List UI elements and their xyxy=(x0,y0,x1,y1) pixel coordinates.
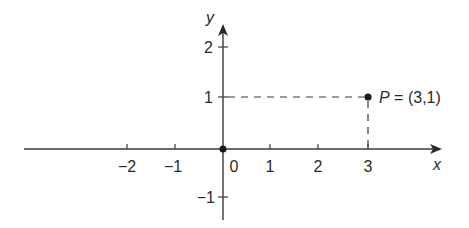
y-axis-label: y xyxy=(205,9,215,26)
origin-point xyxy=(219,145,226,152)
y-tick-label: 1 xyxy=(204,89,213,106)
point-p-name: P xyxy=(379,89,390,106)
y-tick-label: 2 xyxy=(204,39,213,56)
x-tick-label: 0 xyxy=(230,158,239,175)
x-tick-label: −2 xyxy=(118,158,136,175)
coordinate-plane: −2 −1 0 1 2 3 2 1 −1 x y P = (3,1) xyxy=(0,0,469,228)
x-tick-label: −1 xyxy=(164,158,182,175)
x-ticks xyxy=(127,144,368,149)
point-p xyxy=(364,93,371,100)
x-tick-label: 3 xyxy=(364,158,373,175)
y-tick-label: −1 xyxy=(197,189,215,206)
x-tick-label: 2 xyxy=(314,158,323,175)
point-p-label: P = (3,1) xyxy=(379,89,441,106)
x-tick-label: 1 xyxy=(266,158,275,175)
point-p-coords: = (3,1) xyxy=(390,89,441,106)
x-axis-label: x xyxy=(432,156,442,173)
